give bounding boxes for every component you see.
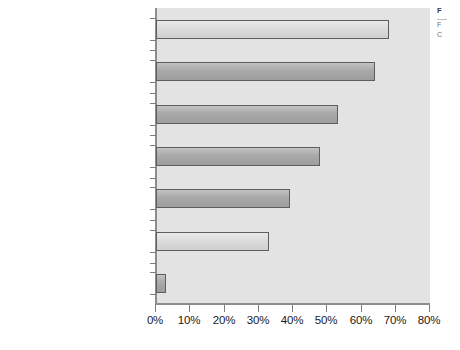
y-axis-tick-top-1 xyxy=(150,60,156,61)
x-axis-tick-4 xyxy=(292,305,293,312)
x-axis-tick-3 xyxy=(258,305,259,312)
y-axis-tick-top-6 xyxy=(150,272,156,273)
x-axis-label-5: 50% xyxy=(306,314,346,326)
x-axis-label-8: 80% xyxy=(409,314,449,326)
bar-4 xyxy=(156,189,290,208)
bar-1 xyxy=(156,62,375,81)
y-axis-tick-top-5 xyxy=(150,230,156,231)
x-axis-label-1: 10% xyxy=(169,314,209,326)
y-axis-tick-top-0 xyxy=(150,18,156,19)
y-axis-tick-bottom-6 xyxy=(150,294,156,295)
side-caption-line1: F xyxy=(437,20,460,30)
side-caption-line2: C xyxy=(437,30,460,40)
y-axis-tick-bottom-5 xyxy=(150,252,156,253)
side-caption-title: F xyxy=(437,6,460,16)
x-axis-tick-1 xyxy=(189,305,190,312)
bar-2 xyxy=(156,105,338,124)
x-axis-tick-6 xyxy=(361,305,362,312)
y-axis-tick-top-2 xyxy=(150,103,156,104)
horizontal-bar-chart: Tap outside sourcesof expertiseConcentra… xyxy=(0,0,460,350)
y-axis-tick-bottom-1 xyxy=(150,82,156,83)
y-axis-tick-bottom-3 xyxy=(150,167,156,168)
y-axis-tick-6 xyxy=(150,263,156,264)
y-axis-tick-bottom-0 xyxy=(150,40,156,41)
plot-inner: Tap outside sourcesof expertiseConcentra… xyxy=(155,8,430,305)
x-axis-tick-2 xyxy=(224,305,225,312)
x-axis-tick-7 xyxy=(395,305,396,312)
y-axis-tick-bottom-2 xyxy=(150,125,156,126)
bar-0 xyxy=(156,20,389,39)
side-caption: F F C xyxy=(437,6,460,40)
x-axis-tick-5 xyxy=(326,305,327,312)
x-axis-tick-0 xyxy=(155,305,156,312)
plot-area: Tap outside sourcesof expertiseConcentra… xyxy=(155,8,430,305)
y-axis-tick-5 xyxy=(150,220,156,221)
y-axis-tick-top-4 xyxy=(150,187,156,188)
bar-3 xyxy=(156,147,320,166)
y-axis-tick-top-3 xyxy=(150,145,156,146)
y-axis-tick-2 xyxy=(150,93,156,94)
y-axis-tick-4 xyxy=(150,178,156,179)
y-axis-tick-3 xyxy=(150,135,156,136)
x-axis-tick-8 xyxy=(429,305,430,312)
bar-6 xyxy=(156,274,166,293)
y-axis-tick-bottom-4 xyxy=(150,209,156,210)
bar-5 xyxy=(156,232,269,251)
y-axis-tick-1 xyxy=(150,50,156,51)
